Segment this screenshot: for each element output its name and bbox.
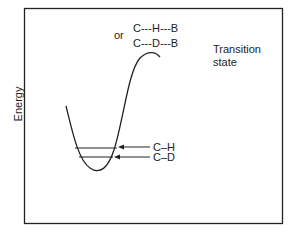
y-axis-label: Energy (12, 84, 24, 124)
ts-structure-d: C---D---B (133, 37, 178, 49)
energy-diagram (0, 0, 290, 233)
transition-state-label-2: state (213, 56, 237, 68)
ts-structure-h: C---H---B (133, 22, 178, 34)
ch-arrow-head (118, 145, 124, 150)
cd-arrow-head (114, 155, 120, 160)
transition-state-label-1: Transition (213, 43, 261, 55)
potential-energy-curve (66, 53, 160, 171)
cd-level-label: C–D (153, 151, 175, 163)
or-label: or (114, 29, 124, 41)
